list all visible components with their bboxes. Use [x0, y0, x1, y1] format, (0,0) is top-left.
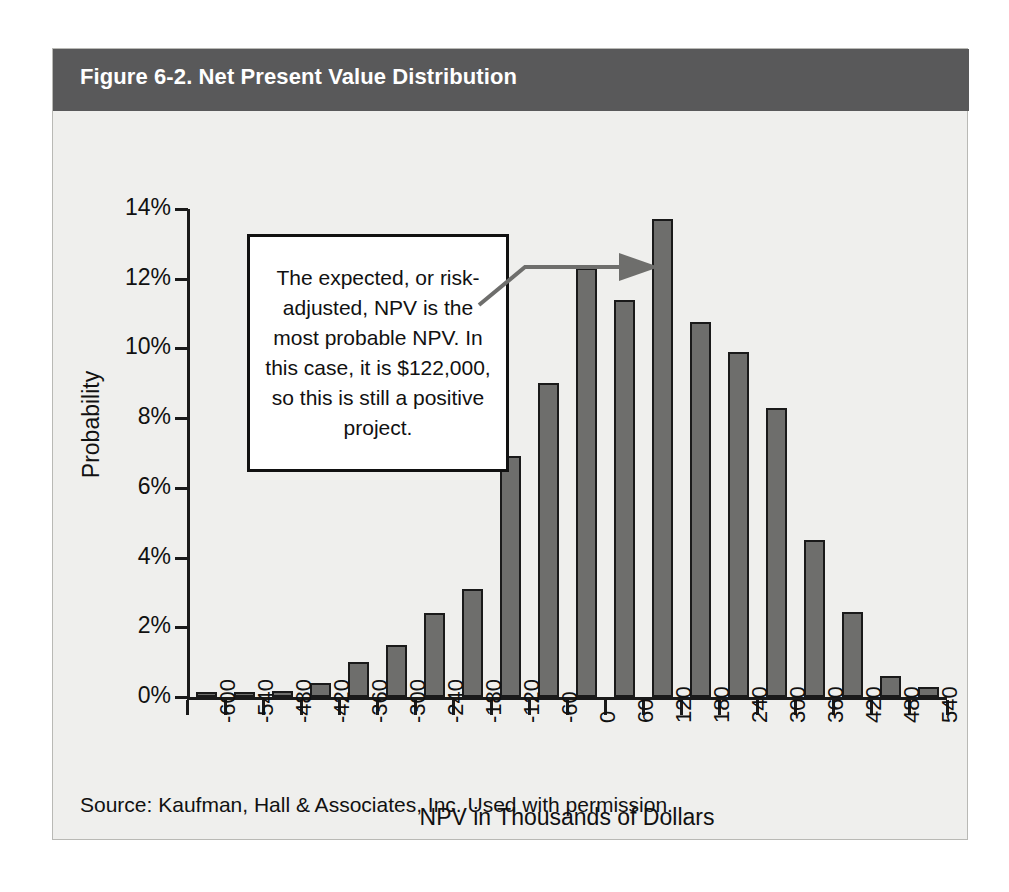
x-axis-tick-label: -300 — [405, 697, 431, 723]
figure-title-bar: Figure 6-2. Net Present Value Distributi… — [53, 49, 969, 111]
x-axis-tick-label: 60 — [633, 697, 659, 723]
x-axis-tick-label: 0 — [595, 697, 621, 723]
y-axis-tick-label: 6% — [97, 473, 171, 500]
x-axis-tick-label: -540 — [253, 697, 279, 723]
y-axis-title: Probability — [78, 335, 105, 515]
y-axis-tick-label: 12% — [97, 264, 171, 291]
chart-bar — [842, 612, 863, 697]
y-axis-tick — [175, 626, 188, 629]
x-axis-tick-label: -420 — [329, 697, 355, 723]
source-note: Source: Kaufman, Hall & Associates, Inc.… — [80, 793, 673, 817]
chart-bar — [500, 456, 521, 697]
x-axis-tick-label: -60 — [557, 697, 583, 723]
y-axis-tick-label: 0% — [97, 682, 171, 709]
x-axis-tick-label: 360 — [823, 697, 849, 723]
callout-annotation-text: The expected, or risk-adjusted, NPV is t… — [250, 263, 506, 443]
x-axis-tick-label: -600 — [215, 697, 241, 723]
chart-bar — [652, 219, 673, 697]
x-axis-tick-label: 300 — [785, 697, 811, 723]
chart-bar — [196, 692, 217, 697]
chart-bar — [538, 383, 559, 697]
y-axis-tick-label: 14% — [97, 194, 171, 221]
chart-bar — [690, 322, 711, 697]
y-axis-tick-label: 2% — [97, 612, 171, 639]
x-axis-tick-label: -360 — [367, 697, 393, 723]
x-axis-tick-label: -240 — [443, 697, 469, 723]
x-axis-tick — [186, 700, 189, 715]
y-axis-tick — [175, 278, 188, 281]
y-axis-tick — [175, 208, 188, 211]
x-axis-tick-label: 240 — [747, 697, 773, 723]
chart-bar — [804, 540, 825, 697]
y-axis-tick — [175, 417, 188, 420]
page-canvas: Figure 6-2. Net Present Value Distributi… — [0, 0, 1009, 892]
chart-plot-area: 14%12%10%8%6%4%2%0% Probability -600-540… — [53, 111, 969, 841]
x-axis-tick-label: -180 — [481, 697, 507, 723]
x-axis-tick-label: 420 — [861, 697, 887, 723]
chart-bar — [766, 408, 787, 697]
x-axis-tick-label: -480 — [291, 697, 317, 723]
y-axis-tick-label: 10% — [97, 333, 171, 360]
y-axis-tick-label: 4% — [97, 543, 171, 570]
x-axis-tick-label: -120 — [519, 697, 545, 723]
y-axis-tick — [175, 347, 188, 350]
figure-frame: Figure 6-2. Net Present Value Distributi… — [52, 48, 968, 840]
y-axis-tick — [175, 696, 188, 699]
y-axis-tick-label: 8% — [97, 403, 171, 430]
chart-bar — [728, 352, 749, 697]
x-axis-tick-label: 540 — [937, 697, 963, 723]
x-axis-tick-label: 480 — [899, 697, 925, 723]
chart-bar — [576, 268, 597, 697]
x-axis-tick-label: 180 — [709, 697, 735, 723]
y-axis-tick — [175, 557, 188, 560]
figure-title: Figure 6-2. Net Present Value Distributi… — [80, 64, 517, 90]
y-axis-tick — [175, 487, 188, 490]
callout-annotation-box: The expected, or risk-adjusted, NPV is t… — [247, 234, 509, 472]
x-axis-tick-label: 120 — [671, 697, 697, 723]
chart-bar — [614, 300, 635, 697]
